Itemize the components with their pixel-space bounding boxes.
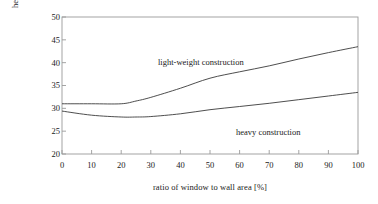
annotation-heavy-construction: heavy construction [236,127,300,137]
plot-frame [62,17,358,154]
x-axis-ticks [62,150,358,154]
series-line-heavy-construction [62,92,358,117]
chart-figure: heating requirement [kWh/m²] 50 45 40 35… [0,0,378,204]
annotation-light-weight-construction: light-weight construction [158,57,244,67]
plot-area [0,0,378,204]
series-line-light-weight-construction [62,47,358,104]
y-axis-ticks [62,17,66,154]
